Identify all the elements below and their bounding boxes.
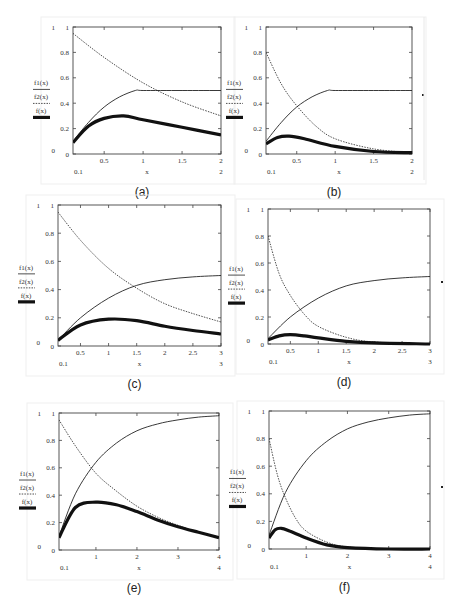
- x-tick-label: 3: [387, 552, 391, 560]
- x-axis-label: x: [145, 168, 149, 176]
- x-min-label: 0.1: [270, 563, 279, 571]
- plot-frame: [59, 413, 219, 550]
- x-axis-label: x: [348, 563, 352, 571]
- x-tick-label: 1: [317, 347, 321, 355]
- y-tick-label: 0.8: [255, 233, 264, 241]
- figure: 00.20.40.60.81100.511.520.12xf1(x)f2(x)f…: [0, 0, 461, 604]
- chart-panel-d: 00.20.40.60.81100.511.522.530.13xf1(x)f2…: [228, 199, 444, 389]
- y-tick-label: 0: [259, 151, 263, 159]
- y-tick-label: 0.6: [255, 260, 264, 268]
- x-axis-label: x: [138, 360, 142, 368]
- y-min-label: 0: [37, 339, 41, 347]
- y-max-label: 1: [248, 408, 252, 416]
- y-tick-label: 1: [261, 206, 265, 214]
- x-tick-label: 4: [428, 552, 432, 560]
- y-tick-label: 0.2: [256, 518, 265, 526]
- x-tick-label: 1.5: [369, 157, 378, 165]
- y-tick-label: 0.8: [46, 437, 55, 445]
- legend-label-f: f(x): [231, 293, 242, 301]
- x-axis-label: x: [137, 564, 141, 572]
- legend-label-f1: f1(x): [20, 470, 35, 478]
- y-tick-label: 0.6: [45, 258, 54, 266]
- legend-label-f2: f2(x): [227, 93, 242, 101]
- panel-caption: (c): [128, 377, 142, 391]
- legend: f1(x)f2(x)f(x): [226, 79, 243, 117]
- y-tick-label: 0.6: [60, 74, 69, 82]
- legend-label-f2: f2(x): [230, 482, 245, 490]
- x-tick-label: 3: [219, 349, 223, 357]
- panel-caption: (d): [337, 375, 352, 389]
- x-tick-label: 0.5: [76, 349, 85, 357]
- panel-caption: (b): [327, 185, 342, 199]
- x-tick-label: 3: [428, 347, 432, 355]
- y-tick-label: 0.4: [46, 492, 55, 500]
- x-min-label: 0.1: [269, 358, 278, 366]
- x-tick-label: 1: [107, 349, 111, 357]
- x-tick-label: 4: [217, 553, 221, 561]
- chart-panel-b: 00.20.40.60.81100.511.520.12xf1(x)f2(x)f…: [226, 17, 426, 199]
- y-tick-label: 0.2: [45, 314, 54, 322]
- y-tick-label: 0.2: [46, 519, 55, 527]
- legend: f1(x)f2(x)f(x): [19, 470, 36, 508]
- y-tick-label: 0.8: [253, 49, 262, 57]
- legend-label-f: f(x): [232, 496, 243, 504]
- y-max-label: 1: [52, 24, 56, 32]
- legend: f1(x)f2(x)f(x): [18, 264, 35, 302]
- y-tick-label: 0: [51, 343, 55, 351]
- y-min-label: 0: [38, 543, 42, 551]
- legend: f1(x)f2(x)f(x): [229, 468, 246, 506]
- x-tick-label: 1: [94, 553, 98, 561]
- x-max-label: 2: [219, 168, 223, 176]
- x-tick-label: 1.5: [178, 157, 187, 165]
- y-tick-label: 0.8: [60, 49, 69, 57]
- panel-caption: (f): [339, 580, 350, 594]
- legend-label-f1: f1(x): [227, 79, 242, 87]
- y-max-label: 1: [245, 24, 249, 32]
- legend-label-f2: f2(x): [20, 484, 35, 492]
- y-tick-label: 0: [66, 151, 70, 159]
- y-tick-label: 0: [262, 546, 266, 554]
- y-tick-label: 1: [51, 202, 55, 210]
- y-max-label: 1: [247, 206, 251, 214]
- y-tick-label: 0.6: [256, 463, 265, 471]
- x-max-label: 4: [217, 564, 221, 572]
- y-tick-label: 0.4: [60, 100, 69, 108]
- panel-caption: (e): [127, 581, 142, 595]
- marker-dot: [441, 281, 443, 283]
- x-axis-label: x: [347, 358, 351, 366]
- x-tick-label: 1: [304, 552, 308, 560]
- legend-label-f2: f2(x): [34, 93, 49, 101]
- y-tick-label: 0.4: [256, 490, 265, 498]
- x-max-label: 4: [428, 563, 432, 571]
- x-tick-label: 1.5: [342, 347, 351, 355]
- x-tick-label: 2.5: [398, 347, 407, 355]
- y-max-label: 1: [38, 410, 42, 418]
- y-tick-label: 0.2: [253, 125, 262, 133]
- chart-panel-c: 00.20.40.60.81100.511.522.530.13xf1(x)f2…: [18, 195, 235, 391]
- x-max-label: 3: [428, 358, 432, 366]
- y-tick-label: 1: [259, 24, 263, 32]
- x-tick-label: 0.5: [100, 157, 109, 165]
- legend-label-f: f(x): [36, 107, 47, 115]
- x-min-label: 0.1: [60, 564, 69, 572]
- x-tick-label: 1: [141, 157, 145, 165]
- y-min-label: 0: [52, 147, 56, 155]
- chart-panel-e: 00.20.40.60.811012340.14xf1(x)f2(x)f(x)(…: [19, 403, 233, 595]
- y-min-label: 0: [248, 542, 252, 550]
- y-tick-label: 0: [261, 341, 265, 349]
- y-min-label: 0: [245, 147, 249, 155]
- y-tick-label: 0.2: [255, 314, 264, 322]
- marker-dot: [441, 486, 443, 488]
- x-tick-label: 3: [176, 553, 180, 561]
- panel-caption: (a): [135, 185, 150, 199]
- legend-label-f1: f1(x): [230, 468, 245, 476]
- legend: f1(x)f2(x)f(x): [33, 79, 50, 117]
- plot-frame: [268, 209, 430, 344]
- x-tick-label: 1.5: [132, 349, 141, 357]
- x-tick-label: 2: [163, 349, 167, 357]
- x-min-label: 0.1: [59, 360, 68, 368]
- legend-label-f2: f2(x): [229, 279, 244, 287]
- y-tick-label: 0.6: [253, 74, 262, 82]
- chart-panel-f: 00.20.40.60.811012340.14xf1(x)f2(x)f(x)(…: [229, 401, 444, 594]
- x-tick-label: 2: [410, 157, 414, 165]
